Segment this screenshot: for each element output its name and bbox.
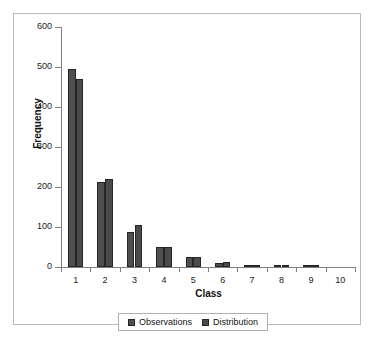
- x-axis-tick: [355, 268, 356, 272]
- bar-distribution-class-3: [135, 225, 143, 267]
- y-axis-tick-label: 200: [18, 182, 52, 191]
- legend-entry: Observations: [128, 317, 192, 327]
- bar-distribution-class-2: [105, 179, 113, 267]
- bar-distribution-class-1: [76, 79, 84, 267]
- x-axis-tick-label: 9: [296, 275, 325, 285]
- bar-observations-class-9: [303, 265, 311, 267]
- chart-frame: 0100200300400500600 12345678910 Frequenc…: [13, 13, 361, 325]
- y-axis-tick-label: 0: [18, 262, 52, 271]
- plot-area: [61, 27, 355, 267]
- bar-observations-class-3: [127, 232, 135, 267]
- y-axis-tick-label-wrap: 600: [14, 22, 52, 31]
- x-axis-tick-label: 4: [149, 275, 178, 285]
- y-axis-tick-label-wrap: 200: [14, 182, 52, 191]
- bar-observations-class-4: [156, 247, 164, 267]
- x-axis-tick-label: 6: [208, 275, 237, 285]
- legend-swatch-icon: [202, 319, 209, 326]
- chart-legend: ObservationsDistribution: [118, 313, 268, 331]
- legend-label: Observations: [139, 317, 192, 327]
- bar-distribution-class-4: [164, 247, 172, 267]
- bar-observations-class-8: [274, 265, 282, 267]
- x-axis-tick-label: 5: [179, 275, 208, 285]
- x-axis-tick-label: 8: [267, 275, 296, 285]
- x-axis-tick-label: 1: [61, 275, 90, 285]
- bar-distribution-class-8: [282, 265, 290, 267]
- legend-entry: Distribution: [202, 317, 258, 327]
- bar-observations-class-7: [244, 265, 252, 267]
- x-axis-title: Class: [61, 288, 356, 299]
- x-axis-tick: [90, 268, 91, 272]
- x-axis-tick-label: 3: [120, 275, 149, 285]
- bar-observations-class-1: [68, 69, 76, 267]
- x-axis-tick: [208, 268, 209, 272]
- legend-swatch-icon: [128, 319, 135, 326]
- bar-observations-class-2: [97, 182, 105, 267]
- bar-observations-class-6: [215, 263, 223, 267]
- legend-label: Distribution: [213, 317, 258, 327]
- x-axis-tick: [120, 268, 121, 272]
- x-axis-tick: [267, 268, 268, 272]
- x-axis-tick: [179, 268, 180, 272]
- bar-distribution-class-9: [311, 265, 319, 267]
- bar-distribution-class-7: [252, 265, 260, 267]
- x-axis-tick-label: 2: [90, 275, 119, 285]
- x-axis-tick: [61, 268, 62, 272]
- bar-observations-class-5: [186, 257, 194, 267]
- x-axis-tick-label: 7: [237, 275, 266, 285]
- x-axis-tick: [296, 268, 297, 272]
- x-axis-tick: [149, 268, 150, 272]
- y-axis-tick-label: 100: [18, 222, 52, 231]
- x-axis-tick: [326, 268, 327, 272]
- x-axis-tick: [237, 268, 238, 272]
- bar-distribution-class-5: [193, 257, 201, 267]
- y-axis-tick-label-wrap: 100: [14, 222, 52, 231]
- bar-distribution-class-6: [223, 262, 231, 267]
- y-axis-title: Frequency: [32, 69, 43, 179]
- x-axis-tick-label: 10: [326, 275, 355, 285]
- y-axis-tick-label: 600: [18, 22, 52, 31]
- y-axis-tick-label-wrap: 0: [14, 262, 52, 271]
